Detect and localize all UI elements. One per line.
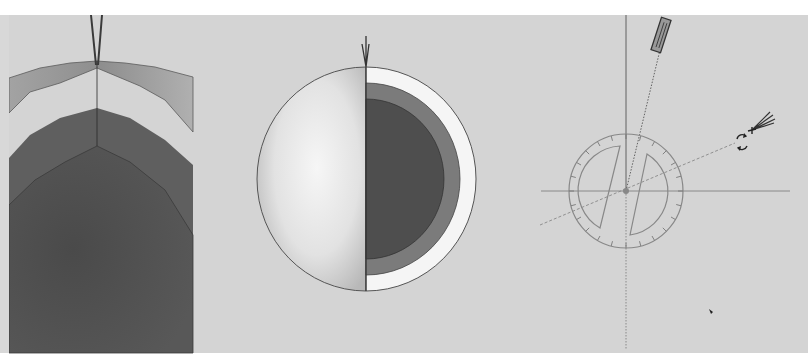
scene-canvas[interactable] — [0, 0, 808, 355]
inference-line-camera — [626, 50, 660, 191]
mouse-pointer-icon — [709, 309, 713, 314]
panel-sectioned-sphere — [257, 36, 476, 291]
panel-closeup — [0, 15, 193, 353]
axis-pin-icon — [91, 15, 102, 65]
rotate-cursor-icon[interactable] — [737, 112, 775, 151]
panel-protractor — [540, 15, 790, 350]
axis-pin-icon — [362, 36, 369, 67]
protractor-center-point[interactable] — [623, 188, 629, 194]
protractor-left-half — [578, 146, 620, 228]
protractor-right-half — [630, 154, 668, 235]
camera-marker-icon[interactable] — [651, 17, 671, 52]
sphere-outer-half — [257, 67, 366, 291]
